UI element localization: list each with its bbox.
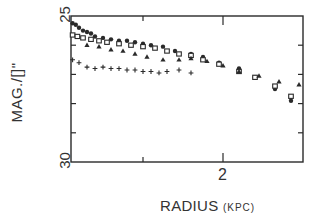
- chart-canvas: [0, 0, 322, 223]
- data-point-square: [201, 58, 206, 62]
- data-point-plus: [101, 65, 106, 70]
- data-point-plus: [157, 71, 162, 76]
- plot-frame: [71, 16, 303, 162]
- series-plus: [70, 57, 193, 75]
- series-square-open: [70, 33, 293, 99]
- data-point-square: [141, 45, 146, 49]
- data-point-plus: [189, 71, 194, 76]
- data-point-plus: [133, 68, 138, 73]
- data-point-plus: [117, 66, 122, 71]
- data-point-plus: [125, 68, 130, 73]
- x-axis-title-text: RADIUS: [160, 197, 218, 214]
- data-point-square: [289, 94, 294, 98]
- data-point-triangle: [276, 79, 281, 83]
- data-point-square: [105, 40, 110, 44]
- data-point-circle: [161, 44, 165, 48]
- data-point-square: [217, 62, 222, 66]
- data-point-circle: [81, 28, 85, 32]
- data-point-triangle: [120, 48, 125, 52]
- data-point-circle: [85, 30, 89, 34]
- data-point-triangle: [132, 51, 137, 55]
- x-axis-title: RADIUS (KPC): [160, 197, 255, 214]
- data-point-triangle: [144, 54, 149, 58]
- data-point-square: [70, 33, 75, 37]
- data-point-plus: [93, 66, 98, 71]
- data-point-triangle: [108, 47, 113, 51]
- data-point-square: [81, 36, 86, 40]
- data-point-square: [273, 84, 278, 88]
- data-point-square: [75, 34, 80, 38]
- data-point-square: [177, 52, 182, 56]
- data-point-plus: [85, 65, 90, 70]
- data-point-circle: [125, 39, 129, 43]
- data-point-square: [97, 39, 102, 43]
- data-point-plus: [177, 68, 182, 73]
- series-triangle-filled: [84, 43, 301, 87]
- data-point-square: [129, 43, 134, 47]
- axis-ticks: [71, 16, 303, 162]
- data-point-plus: [141, 69, 146, 74]
- data-point-plus: [109, 66, 114, 71]
- y-axis-title: MAG./[]": [8, 62, 25, 122]
- data-point-square: [153, 46, 158, 50]
- data-point-plus: [165, 69, 170, 74]
- data-point-triangle: [96, 44, 101, 48]
- plot-border: [71, 16, 303, 162]
- data-point-plus: [77, 60, 82, 65]
- data-point-circle: [89, 31, 93, 35]
- data-point-plus: [149, 69, 154, 74]
- data-point-square: [165, 49, 170, 53]
- data-point-triangle: [84, 43, 89, 47]
- data-point-triangle: [296, 82, 301, 86]
- series-circle-filled: [70, 21, 293, 103]
- data-points: [70, 21, 301, 103]
- x-axis-unit: (KPC): [223, 202, 255, 213]
- data-point-circle: [77, 25, 81, 29]
- y-tick-label-30: 30: [56, 152, 73, 169]
- data-point-triangle: [160, 57, 165, 61]
- data-point-square: [117, 42, 122, 46]
- data-point-square: [89, 37, 94, 41]
- x-tick-label-2: 2: [218, 166, 227, 184]
- y-tick-label-25: 25: [56, 6, 73, 23]
- data-point-triangle: [176, 57, 181, 61]
- data-point-circle: [289, 98, 293, 102]
